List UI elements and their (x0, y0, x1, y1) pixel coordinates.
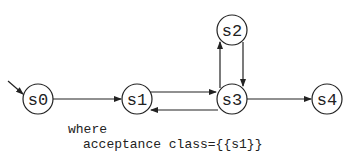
automaton-diagram: s0 s1 s2 s3 s4 (0, 0, 350, 151)
svg-text:s4: s4 (317, 91, 337, 110)
svg-text:s0: s0 (28, 91, 48, 110)
state-s0: s0 (23, 84, 53, 114)
svg-text:s3: s3 (222, 91, 242, 110)
initial-arrow (8, 81, 23, 94)
svg-text:s1: s1 (127, 91, 147, 110)
state-s2: s2 (217, 15, 247, 45)
svg-text:s2: s2 (222, 22, 242, 41)
note-acceptance-class: acceptance class={{s1}} (83, 137, 262, 151)
state-s4: s4 (312, 84, 342, 114)
state-s1: s1 (122, 84, 152, 114)
state-s3: s3 (217, 84, 247, 114)
note-where: where (68, 122, 107, 137)
